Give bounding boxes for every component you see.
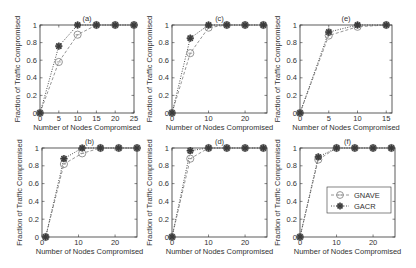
- gacr-star-marker: [325, 28, 332, 35]
- legend-gacr-label: GACR: [354, 202, 376, 211]
- x-axis-label: Number of Nodes Compromised: [292, 123, 400, 132]
- gacr-star-marker: [223, 21, 230, 28]
- x-tick-label: 10: [73, 114, 81, 123]
- chart-panel-b: 00.20.40.60.8101020(b)Number of Nodes Co…: [15, 137, 143, 256]
- y-tick-label: 0.8: [29, 161, 39, 170]
- y-tick-label: 0.4: [29, 197, 39, 206]
- x-tick-label: 15: [382, 114, 390, 123]
- figure-canvas: 00.20.40.60.810510152025(a)Number of Nod…: [0, 0, 416, 268]
- x-tick-label: 25: [130, 114, 138, 123]
- gacr-star-marker: [241, 21, 248, 28]
- x-tick-label: 5: [327, 114, 331, 123]
- gacr-star-marker: [315, 153, 322, 160]
- gacr-line: [172, 148, 263, 237]
- gnave-circle-marker: [55, 58, 62, 65]
- x-axis-label: Number of Nodes Compromised: [166, 247, 274, 256]
- y-tick-label: 1: [293, 144, 297, 153]
- plot-area-frame: [40, 25, 134, 113]
- gnave-line: [300, 25, 386, 113]
- gacr-star-marker: [168, 233, 175, 240]
- gacr-star-marker: [260, 144, 267, 151]
- x-tick-label: 20: [111, 238, 119, 247]
- y-axis-label: Fraction of Traffic Compromised: [15, 139, 24, 246]
- gacr-star-marker: [223, 144, 230, 151]
- gacr-line: [300, 25, 386, 113]
- gacr-star-marker: [337, 203, 344, 210]
- gnave-line: [172, 148, 263, 237]
- gacr-star-marker: [130, 21, 137, 28]
- gacr-star-marker: [187, 35, 194, 42]
- y-tick-label: 0.8: [27, 38, 37, 47]
- x-tick-label: 20: [241, 114, 249, 123]
- plot-area-frame: [172, 25, 267, 113]
- y-tick-label: 0.8: [287, 161, 297, 170]
- panel-title: (a): [82, 14, 92, 23]
- gacr-star-marker: [133, 144, 140, 151]
- y-tick-label: 1: [165, 144, 169, 153]
- gnave-line: [172, 25, 263, 113]
- gacr-star-marker: [333, 144, 340, 151]
- gacr-star-marker: [205, 144, 212, 151]
- gacr-star-marker: [97, 144, 104, 151]
- y-tick-label: 0.2: [29, 215, 39, 224]
- y-tick-label: 1: [35, 144, 39, 153]
- y-axis-label: Fraction of Traffic Compromised: [273, 16, 282, 123]
- x-tick-label: 5: [57, 114, 61, 123]
- gnave-circle-marker: [187, 155, 194, 162]
- y-tick-label: 0.6: [287, 179, 297, 188]
- y-tick-label: 1: [293, 21, 297, 30]
- x-axis-label: Number of Nodes Compromised: [166, 123, 274, 132]
- gacr-star-marker: [112, 21, 119, 28]
- y-tick-label: 0.2: [159, 215, 169, 224]
- gacr-star-marker: [383, 21, 390, 28]
- chart-panel-a: 00.20.40.60.810510152025(a)Number of Nod…: [13, 14, 141, 132]
- x-tick-label: 10: [332, 238, 340, 247]
- gacr-line: [46, 148, 137, 237]
- y-tick-label: 0.6: [159, 179, 169, 188]
- gacr-star-marker: [205, 21, 212, 28]
- x-tick-label: 10: [204, 114, 212, 123]
- gnave-line: [46, 148, 137, 237]
- y-tick-label: 1: [33, 21, 37, 30]
- y-tick-label: 0.6: [159, 56, 169, 65]
- y-tick-label: 0.4: [287, 197, 297, 206]
- gacr-star-marker: [296, 233, 303, 240]
- panel-title: (b): [85, 137, 95, 146]
- y-tick-label: 0.4: [159, 73, 169, 82]
- gacr-star-marker: [55, 43, 62, 50]
- gnave-circle-marker: [74, 31, 81, 38]
- gnave-circle-marker: [187, 50, 194, 57]
- plot-area-frame: [172, 148, 267, 237]
- chart-panel-e: 00.20.40.60.81051015(e)Number of Nodes C…: [273, 14, 400, 132]
- x-tick-label: 20: [241, 238, 249, 247]
- gacr-star-marker: [115, 144, 122, 151]
- gacr-line: [40, 25, 134, 113]
- panel-title: (c): [215, 14, 224, 23]
- x-axis-label: Number of Nodes Compromised: [36, 247, 144, 256]
- gacr-star-marker: [388, 144, 395, 151]
- y-tick-label: 0.2: [287, 91, 297, 100]
- gacr-star-marker: [369, 144, 376, 151]
- y-tick-label: 0.8: [287, 38, 297, 47]
- panel-title: (e): [341, 14, 351, 23]
- gnave-line: [40, 25, 134, 113]
- chart-panel-f: 00.20.40.60.8101020(f)Number of Nodes Co…: [273, 137, 401, 256]
- chart-panel-c: 00.20.40.60.8101020(c)Number of Nodes Co…: [145, 14, 273, 132]
- y-tick-label: 0.2: [159, 91, 169, 100]
- gacr-star-marker: [351, 144, 358, 151]
- gacr-star-marker: [79, 144, 86, 151]
- x-tick-label: 10: [74, 238, 82, 247]
- gacr-star-marker: [74, 21, 81, 28]
- x-tick-label: 10: [353, 114, 361, 123]
- x-axis-label: Number of Nodes Compromised: [294, 247, 402, 256]
- gacr-star-marker: [187, 147, 194, 154]
- x-tick-label: 15: [92, 114, 100, 123]
- gacr-star-marker: [42, 233, 49, 240]
- panel-title: (f): [344, 137, 352, 146]
- y-axis-label: Fraction of Traffic Compromised: [145, 16, 154, 123]
- panel-title: (d): [215, 137, 225, 146]
- gacr-star-marker: [260, 21, 267, 28]
- x-axis-label: Number of Nodes Compromised: [33, 123, 141, 132]
- gacr-star-marker: [36, 109, 43, 116]
- x-tick-label: 20: [369, 238, 377, 247]
